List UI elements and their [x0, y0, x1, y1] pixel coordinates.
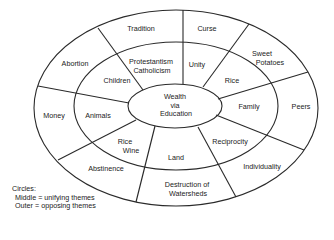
spoke-destruction-abstinence [136, 126, 155, 202]
center-label: Wealth via Education [160, 92, 192, 118]
middle-label-animals: Animals [85, 111, 111, 120]
outer-label-money: Money [43, 111, 65, 120]
middle-label-protestantism-catholicism: Protestantism Catholicism [129, 57, 175, 75]
middle-label-children: Children [104, 76, 131, 85]
middle-label-land: Land [168, 153, 184, 162]
outer-label-individuality: Individuality [243, 162, 281, 171]
outer-label-sweet-potatoes: Sweet Potatoes [252, 49, 285, 67]
spoke-money-abortion [38, 86, 129, 103]
middle-label-family: Family [238, 102, 260, 111]
middle-label-rice: Rice [225, 76, 239, 85]
outer-label-destruction-of-watersheds: Destruction of Watersheds [165, 180, 211, 198]
outer-label-abortion: Abortion [62, 59, 89, 68]
legend: Circles: Middle = unifying themes Outer … [12, 185, 96, 211]
legend-outer-line: Outer = opposing themes [12, 202, 96, 211]
outer-label-peers: Peers [292, 102, 311, 111]
middle-label-unity: Unity [189, 60, 206, 69]
outer-label-curse: Curse [197, 24, 216, 33]
middle-label-rice-wine: Rice Wine [118, 137, 139, 155]
outer-label-abstinence: Abstinence [88, 164, 124, 173]
outer-label-tradition: Tradition [127, 24, 155, 33]
middle-label-reciprocity: Reciprocity [212, 137, 248, 146]
